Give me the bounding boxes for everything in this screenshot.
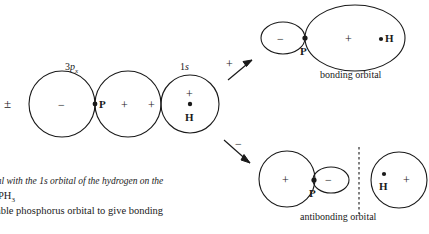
p-orbital-label: 3px <box>65 62 78 75</box>
bonding-large-lobe-sign: + <box>345 33 352 45</box>
reactant-plus-operator: + <box>148 99 155 111</box>
p-orbital-left-lobe-sign: − <box>58 99 65 111</box>
figure-caption-line-2: PH3 <box>0 191 15 204</box>
arrow-to-bonding-head <box>243 60 252 67</box>
s-orbital-sign: + <box>186 88 193 100</box>
hydrogen-nucleus-dot <box>188 102 192 106</box>
bonding-phosphorus-label: P <box>300 46 307 57</box>
antibonding-hydrogen-dot <box>382 172 386 176</box>
antibonding-right-lobe-sign: + <box>403 174 410 186</box>
s-orbital-nucleus-label: H <box>185 112 194 123</box>
phosphorus-nucleus-dot <box>93 102 98 107</box>
lower-arrow-sign: − <box>235 138 242 150</box>
figure-caption-line-3: able phosphorus orbital to give bonding <box>0 206 163 217</box>
antibonding-orbital-caption: antibonding orbital <box>300 212 376 222</box>
antibonding-small-lobe-sign: − <box>325 174 332 186</box>
antibonding-phosphorus-dot <box>311 177 316 182</box>
antibonding-phosphorus-label: P <box>309 188 316 199</box>
plus-minus-sign: ± <box>4 97 11 110</box>
upper-arrow-sign: + <box>226 58 233 70</box>
figure-caption-line-1: tal with the 1s orbital of the hydrogen … <box>0 177 163 187</box>
p-orbital-nucleus-label: P <box>99 99 106 110</box>
diagram-canvas <box>0 0 429 234</box>
orbital-overlap-diagram: 3px ± − P + + 1s + H + − − P + H bonding… <box>0 0 429 234</box>
bonding-small-lobe-sign: − <box>277 33 284 45</box>
bonding-phosphorus-dot <box>302 35 307 40</box>
bonding-hydrogen-dot <box>379 37 383 41</box>
s-orbital-label: 1s <box>180 62 189 72</box>
bonding-hydrogen-label: H <box>385 33 394 44</box>
figure-caption-line-2-text: PH <box>0 190 11 201</box>
bonding-orbital-caption: bonding orbital <box>320 70 381 80</box>
antibonding-large-lobe-sign: + <box>282 174 289 186</box>
figure-caption-line-2-subscript: 3 <box>11 196 15 204</box>
p-orbital-right-lobe-sign: + <box>121 99 128 111</box>
antibonding-hydrogen-label: H <box>379 181 388 192</box>
